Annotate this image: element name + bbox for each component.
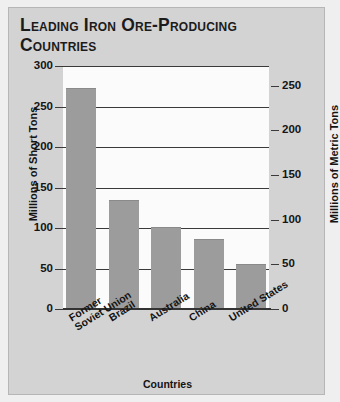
bar-0: [66, 88, 96, 309]
y-tick-label-right: 50: [282, 257, 314, 269]
y-tick-label-right: 100: [282, 213, 314, 225]
y-tick-label-left: 50: [15, 262, 53, 274]
y-tick-label-left: 0: [15, 302, 53, 314]
y-tick-left: [55, 228, 63, 229]
y-tick-right: [271, 130, 279, 131]
y-tick-right: [271, 175, 279, 176]
y-tick-label-right: 250: [282, 79, 314, 91]
y-tick-left: [55, 66, 63, 67]
y-tick-right: [271, 86, 279, 87]
x-axis-title: Countries: [9, 378, 326, 390]
y-tick-label-right: 200: [282, 123, 314, 135]
plot-area: [63, 66, 269, 309]
y-tick-right: [271, 264, 279, 265]
y-tick-left: [55, 269, 63, 270]
chart-panel: Leading Iron Ore-Producing Countries 050…: [8, 7, 325, 395]
y-tick-right: [271, 309, 279, 310]
y-tick-left: [55, 107, 63, 108]
bar-series: [63, 66, 269, 309]
y-tick-label-right: 0: [282, 302, 314, 314]
y-tick-label-left: 300: [15, 59, 53, 71]
y-tick-left: [55, 147, 63, 148]
y-axis-left-title: Millions of Short Tons: [27, 84, 39, 244]
y-tick-right: [271, 220, 279, 221]
chart-title: Leading Iron Ore-Producing Countries: [20, 15, 310, 55]
y-tick-left: [55, 188, 63, 189]
y-axis-right-title: Millions of Metric Tons: [328, 84, 340, 244]
y-tick-left: [55, 309, 63, 310]
y-tick-label-right: 150: [282, 168, 314, 180]
